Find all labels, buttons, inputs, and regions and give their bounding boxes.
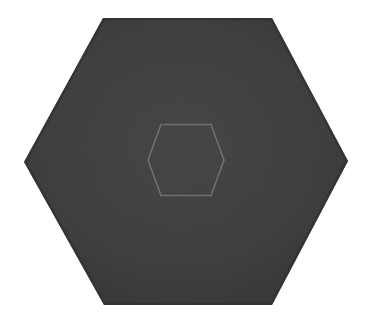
figure-canvas bbox=[0, 0, 377, 327]
hexagon-figure bbox=[0, 0, 377, 327]
